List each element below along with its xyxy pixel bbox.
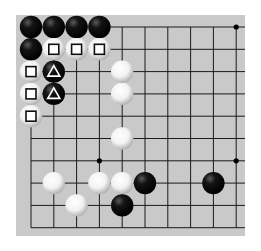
black-stone [88, 16, 110, 38]
white-stone [111, 127, 133, 149]
star-point [97, 158, 102, 163]
black-stone [111, 194, 133, 216]
star-point [234, 158, 239, 163]
go-board-canvas[interactable] [0, 0, 261, 251]
square-mark-icon [72, 44, 82, 54]
black-stone [20, 38, 42, 60]
white-stone [88, 172, 110, 194]
black-stone [43, 60, 65, 82]
black-stone [202, 172, 224, 194]
white-stone [111, 83, 133, 105]
black-stone [43, 83, 65, 105]
black-stone [20, 16, 42, 38]
white-stone [20, 60, 42, 82]
white-stone [88, 38, 110, 60]
black-stone [43, 16, 65, 38]
square-mark-icon [26, 111, 36, 121]
square-mark-icon [26, 89, 36, 99]
black-stone [134, 172, 156, 194]
board-grid-lines [31, 27, 245, 228]
white-stone [111, 172, 133, 194]
white-stone [65, 38, 87, 60]
square-mark-icon [49, 44, 59, 54]
black-stone [65, 16, 87, 38]
white-stone [43, 38, 65, 60]
white-stone [20, 83, 42, 105]
star-point [234, 24, 239, 29]
square-mark-icon [94, 44, 104, 54]
white-stone [20, 105, 42, 127]
white-stone [43, 172, 65, 194]
square-mark-icon [26, 67, 36, 77]
white-stone [65, 194, 87, 216]
white-stone [111, 60, 133, 82]
